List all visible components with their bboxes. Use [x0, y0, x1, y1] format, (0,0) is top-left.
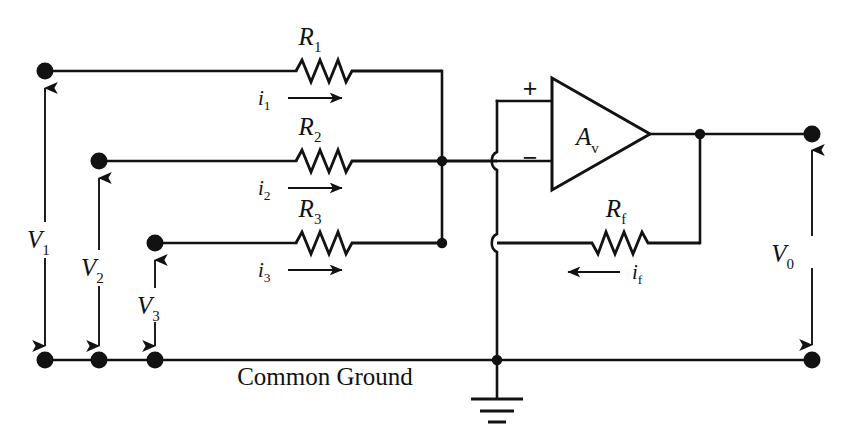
voltage-label-v1: V1	[27, 226, 50, 258]
terminal-dot-v1-return	[37, 352, 54, 369]
terminal-dot-v2-input	[91, 153, 108, 170]
noninverting-ground-bus	[492, 101, 552, 360]
current-label-i1: i1	[258, 86, 271, 113]
resistor-r1-symbol	[296, 60, 442, 82]
wire-plus-to-common-ground	[492, 101, 497, 360]
resistor-label-rf: Rf	[605, 195, 626, 227]
terminal-dot-v3-input	[147, 235, 164, 252]
terminal-dot-v1-input	[37, 63, 54, 80]
resistor-r2-symbol	[296, 150, 497, 172]
earth-ground-symbol	[471, 360, 523, 422]
resistor-label-r2: R2	[298, 113, 322, 145]
common-ground-label: Common Ground	[237, 363, 413, 390]
voltage-label-v2: V2	[81, 254, 104, 286]
branch-r1	[37, 60, 443, 161]
junction-dot-summing-lower	[437, 238, 447, 248]
resistor-rf-symbol	[497, 232, 700, 254]
op-amp	[552, 78, 650, 190]
circuit-diagram: R1 i1 R2 i2 R3 i3	[0, 0, 848, 445]
common-ground-rail	[37, 352, 821, 369]
output-wire	[650, 126, 821, 143]
junction-dot-summing-upper	[437, 156, 447, 166]
voltage-label-v0: V0	[771, 240, 794, 272]
resistor-r3-symbol	[296, 232, 442, 254]
op-amp-minus-sign: −	[523, 143, 538, 171]
current-label-if: if	[632, 260, 643, 287]
terminal-dot-v0-return	[804, 352, 821, 369]
op-amp-triangle	[552, 78, 650, 190]
resistor-label-r1: R1	[298, 23, 322, 55]
terminal-dot-v0-output	[804, 126, 821, 143]
op-amp-plus-sign: +	[523, 74, 538, 102]
branch-r2	[91, 150, 498, 172]
voltage-label-v3: V3	[137, 292, 160, 324]
current-label-i2: i2	[258, 176, 271, 203]
schematic-canvas: R1 i1 R2 i2 R3 i3	[0, 0, 848, 445]
branch-r3	[147, 161, 443, 254]
resistor-label-r3: R3	[298, 195, 322, 227]
terminal-dot-v3-return	[147, 352, 164, 369]
current-label-i3: i3	[258, 258, 271, 285]
terminal-dot-v2-return	[91, 352, 108, 369]
